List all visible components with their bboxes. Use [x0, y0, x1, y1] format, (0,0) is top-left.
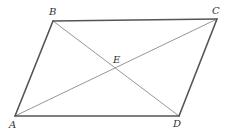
- side-ab: [15, 21, 53, 116]
- label-d: D: [172, 118, 181, 129]
- diagonal-ac: [15, 19, 217, 116]
- diagonals: [15, 19, 217, 116]
- side-bc: [53, 19, 217, 21]
- label-e: E: [112, 54, 121, 65]
- parallelogram-diagram: A B C D E: [0, 0, 230, 136]
- label-c: C: [212, 5, 220, 16]
- side-cd: [179, 19, 217, 116]
- label-a: A: [8, 119, 16, 130]
- diagonal-bd: [53, 21, 179, 116]
- label-b: B: [48, 6, 56, 17]
